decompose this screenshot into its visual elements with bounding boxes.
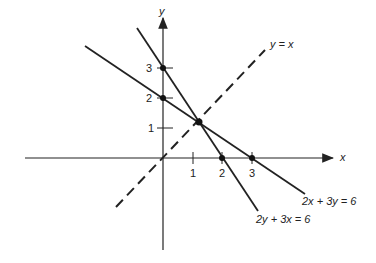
point-0-3 [160, 65, 166, 71]
graph: x y 1 2 3 1 2 3 y = x 2x + 3y = 6 2y + 3… [0, 0, 376, 263]
y-tick-label: 3 [146, 62, 152, 74]
x-tick-label: 1 [190, 167, 196, 179]
point-intersection [196, 119, 203, 126]
x-tick-label: 2 [219, 167, 225, 179]
x-tick-label: 3 [249, 167, 255, 179]
y-tick-label: 2 [146, 92, 152, 104]
point-0-2 [160, 95, 166, 101]
point-3-0 [249, 155, 255, 161]
line-y-equals-x [116, 50, 265, 207]
y-axis-label: y [158, 5, 166, 17]
x-axis-label: x [339, 151, 346, 163]
line-label-2x-plus-3y: 2x + 3y = 6 [301, 195, 357, 207]
y-tick-label: 1 [148, 122, 154, 134]
line-label-y-equals-x: y = x [269, 38, 294, 50]
point-2-0 [219, 155, 225, 161]
line-label-2y-plus-3x: 2y + 3x = 6 [255, 213, 311, 225]
